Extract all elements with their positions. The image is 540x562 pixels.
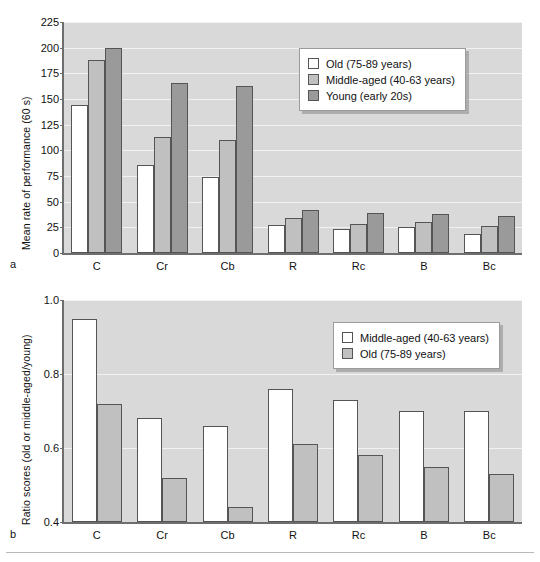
plot-area-b: 0.40.60.81.0CCrCbRRcBBc Middle-aged (40-… (62, 300, 522, 524)
legend-swatch-icon (308, 90, 319, 101)
panel-letter-a: a (10, 258, 16, 270)
x-axis-tick-label: Cb (221, 260, 235, 272)
y-axis-tick-label: 0.8 (44, 368, 59, 380)
y-axis-tick-label: 225 (41, 16, 59, 28)
y-axis-tick-mark (60, 125, 64, 126)
bar (105, 48, 122, 253)
y-axis-tick-label: 75 (47, 170, 59, 182)
bar (302, 210, 319, 253)
bar (285, 218, 302, 253)
bar (464, 411, 489, 522)
x-axis-tick-label: R (289, 529, 297, 541)
legend-entry-label: Old (75-89 years) (360, 348, 446, 360)
bar (72, 319, 97, 523)
legend-entry-label: Middle-aged (40-63 years) (326, 74, 455, 86)
legend-swatch-icon (342, 332, 353, 343)
gridline (64, 374, 522, 375)
y-axis-tick-mark (60, 227, 64, 228)
gridline (64, 202, 522, 203)
x-axis-tick-label: R (289, 260, 297, 272)
x-axis-tick-label: C (93, 260, 101, 272)
x-axis-tick-label: Cb (221, 529, 235, 541)
bar (171, 83, 188, 253)
bar (268, 225, 285, 253)
bar (154, 137, 171, 253)
figure-root: a Mean rate of performance (60 s) 025507… (0, 0, 540, 562)
bar (228, 507, 253, 522)
bar (489, 474, 514, 522)
bar (219, 140, 236, 253)
bar (97, 404, 122, 522)
legend-entry: Middle-aged (40-63 years) (308, 72, 455, 87)
footer-divider (6, 552, 534, 553)
x-axis-tick-label: Rc (352, 260, 365, 272)
gridline (64, 300, 522, 301)
y-axis-tick-mark (60, 176, 64, 177)
bar (481, 226, 498, 253)
x-axis-tick-label: Cr (156, 260, 168, 272)
bar (137, 418, 162, 522)
y-axis-tick-label: 50 (47, 196, 59, 208)
bar (203, 426, 228, 522)
y-axis-title-b: Ratio scores (old or middle-aged/young) (20, 334, 32, 525)
y-axis-tick-label: 200 (41, 42, 59, 54)
bar (424, 467, 449, 523)
y-axis-tick-label: 0.6 (44, 442, 59, 454)
x-axis-tick-label: B (420, 529, 427, 541)
y-axis-tick-mark (60, 150, 64, 151)
x-axis-tick-label: Rc (352, 529, 365, 541)
bar (367, 213, 384, 253)
bar (162, 478, 187, 522)
legend-entry-label: Old (75-89 years) (326, 58, 412, 70)
bar (268, 389, 293, 522)
bar (358, 455, 383, 522)
bar (415, 222, 432, 253)
y-axis-tick-mark (60, 22, 64, 23)
legend-swatch-icon (308, 58, 319, 69)
bar (350, 224, 367, 253)
y-axis-title-a: Mean rate of performance (60 s) (20, 96, 32, 250)
legend-entry-label: Young (early 20s) (326, 90, 412, 102)
bar (398, 227, 415, 253)
y-axis-tick-label: 100 (41, 144, 59, 156)
y-axis-tick-label: 150 (41, 93, 59, 105)
bar (293, 444, 318, 522)
y-axis-tick-mark (60, 448, 64, 449)
y-axis-tick-label: 25 (47, 221, 59, 233)
bar (236, 86, 253, 253)
x-axis-tick-label: B (420, 260, 427, 272)
x-axis-tick-label: Bc (483, 260, 496, 272)
gridline (64, 22, 522, 23)
legend-a: Old (75-89 years)Middle-aged (40-63 year… (299, 48, 466, 111)
bar (333, 229, 350, 253)
bar (88, 60, 105, 253)
y-axis-tick-mark (60, 374, 64, 375)
x-axis-tick-label: Cr (156, 529, 168, 541)
y-axis-tick-mark (60, 522, 64, 523)
y-axis-tick-label: 0.4 (44, 516, 59, 528)
plot-area-a: 0255075100125150175200225CCrCbRRcBBc Old… (62, 22, 522, 255)
x-axis-tick-label: Bc (483, 529, 496, 541)
y-axis-tick-mark (60, 73, 64, 74)
bar (202, 177, 219, 253)
chart-panel-a: a Mean rate of performance (60 s) 025507… (0, 0, 540, 282)
gridline (64, 150, 522, 151)
legend-entry: Young (early 20s) (308, 88, 455, 103)
y-axis-tick-mark (60, 202, 64, 203)
legend-swatch-icon (308, 74, 319, 85)
bar (333, 400, 358, 522)
legend-entry-label: Middle-aged (40-63 years) (360, 332, 489, 344)
x-axis-tick-label: C (93, 529, 101, 541)
y-axis-tick-label: 1.0 (44, 294, 59, 306)
legend-b: Middle-aged (40-63 years)Old (75-89 year… (333, 322, 500, 369)
bar (464, 234, 481, 254)
chart-panel-b: b Ratio scores (old or middle-aged/young… (0, 282, 540, 544)
legend-entry: Middle-aged (40-63 years) (342, 330, 489, 345)
legend-entry: Old (75-89 years) (342, 346, 489, 361)
bar (432, 214, 449, 253)
gridline (64, 125, 522, 126)
y-axis-tick-label: 0 (53, 247, 59, 259)
y-axis-tick-label: 175 (41, 67, 59, 79)
y-axis-tick-label: 125 (41, 119, 59, 131)
gridline (64, 176, 522, 177)
